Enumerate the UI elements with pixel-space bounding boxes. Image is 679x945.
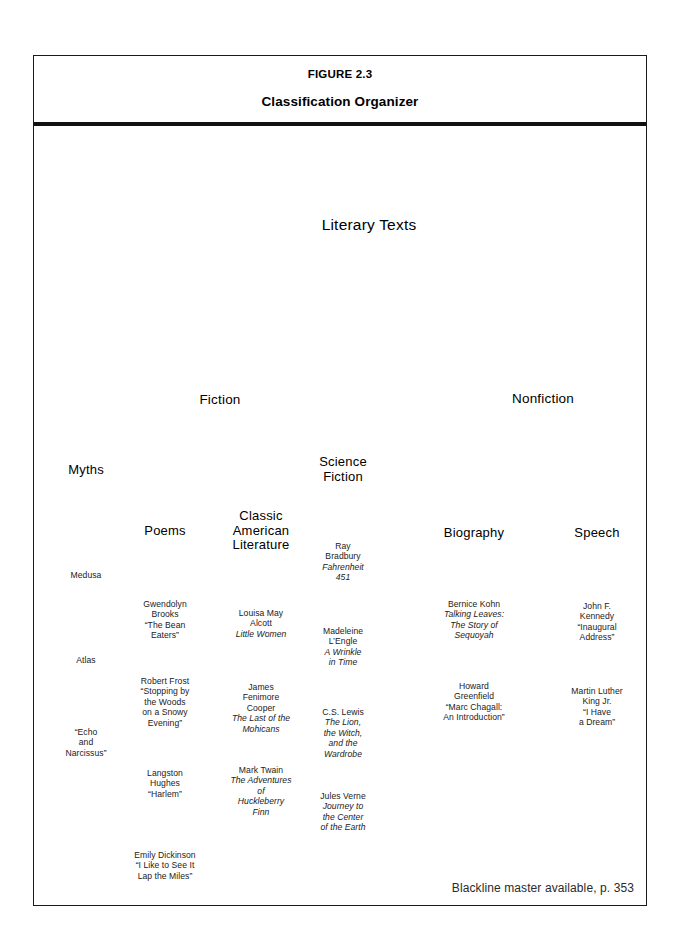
- figure-frame: FIGURE 2.3 Classification Organizer Blac…: [33, 55, 647, 906]
- header-rule: [34, 122, 646, 126]
- figure-number: FIGURE 2.3: [34, 68, 646, 80]
- blackline-master-note: Blackline master available, p. 353: [452, 881, 634, 895]
- figure-page: FIGURE 2.3 Classification Organizer Blac…: [0, 0, 679, 945]
- figure-header: FIGURE 2.3 Classification Organizer: [34, 56, 646, 123]
- figure-title: Classification Organizer: [34, 94, 646, 109]
